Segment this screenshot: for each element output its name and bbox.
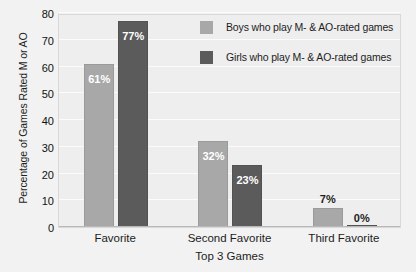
bar-value-label: 7% [320,194,336,205]
x-axis-label: Third Favorite [308,232,379,244]
bar-value-label: 23% [236,175,258,186]
bar: 32% [198,141,228,227]
y-axis-tick: 10 [6,196,54,207]
x-axis-category-labels: FavoriteSecond FavoriteThird Favorite [58,232,401,250]
bar: 23% [232,165,262,227]
y-axis-tick: 80 [6,9,54,20]
y-axis-tick: 60 [6,62,54,73]
x-axis-label: Second Favorite [188,232,272,244]
bar-value-label: 0% [354,213,370,224]
y-axis-tick-labels: 01020304050607080 [0,14,54,228]
x-axis-line [59,226,400,227]
legend-swatch-boys-icon [200,21,213,34]
y-axis-tick: 20 [6,169,54,180]
bar-value-label: 61% [88,74,110,85]
legend-item-boys: Boys who play M- & AO-rated games [200,16,416,38]
y-axis-tick: 70 [6,35,54,46]
bar: 7% [313,208,343,227]
legend-swatch-girls-icon [200,51,213,64]
bar: 77% [118,21,148,227]
bar-value-label: 77% [122,31,144,42]
x-axis-title: Top 3 Games [58,250,401,262]
y-axis-tick: 30 [6,142,54,153]
gridline [59,12,400,13]
bar-value-label: 32% [202,151,224,162]
y-axis-tick: 0 [6,223,54,234]
bar: 61% [84,64,114,227]
chart-legend: Boys who play M- & AO-rated games Girls … [200,16,416,76]
y-axis-tick: 50 [6,89,54,100]
bar-chart: Percentage of Games Rated M or AO 010203… [0,0,416,272]
legend-item-girls: Girls who play M- & AO-rated games [200,46,416,68]
x-axis-label: Favorite [94,232,136,244]
legend-label-girls: Girls who play M- & AO-rated games [226,51,391,63]
bar-group: 61%77% [59,15,173,227]
legend-label-boys: Boys who play M- & AO-rated games [226,21,393,33]
y-axis-tick: 40 [6,116,54,127]
